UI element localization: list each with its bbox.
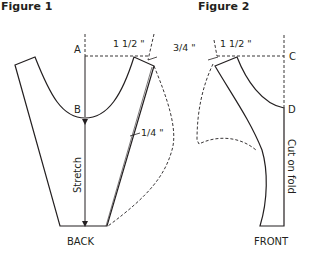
shoulder-guide (214, 40, 217, 56)
width-top-label: 1 1/2 " (220, 38, 252, 49)
shoulder-guide (148, 34, 154, 60)
point-d-label: D (288, 104, 296, 115)
side-add-label: 1/4 " (141, 127, 164, 138)
tick-mark (148, 57, 157, 60)
figure-2-front: 3/4 " 1 1/2 " C D Cut on fold FRONT (173, 35, 297, 247)
figure-1-back: A B 1 1/2 " 1/4 " Stretch BACK (15, 34, 174, 247)
pattern-diagram: A B 1 1/2 " 1/4 " Stretch BACK 3/4 " 1 1… (0, 0, 311, 261)
front-piece-outline (215, 57, 284, 226)
cut-on-fold-label: Cut on fold (286, 139, 297, 194)
stretch-label: Stretch (72, 157, 83, 193)
back-label: BACK (67, 236, 95, 247)
original-side-dashed (108, 66, 174, 226)
side-add-leader (130, 133, 140, 136)
front-label: FRONT (254, 236, 289, 247)
tick-mark (208, 57, 218, 60)
width-top-label: 1 1/2 " (113, 38, 145, 49)
shoulder-drop-label: 3/4 " (173, 42, 196, 53)
point-b-label: B (74, 104, 81, 115)
point-c-label: C (289, 51, 296, 62)
point-a-label: A (74, 44, 81, 55)
side-extension-line (106, 67, 152, 226)
